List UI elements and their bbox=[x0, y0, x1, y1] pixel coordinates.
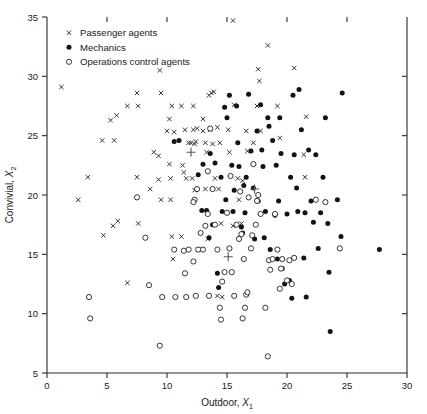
point-passenger-agent bbox=[156, 177, 160, 181]
point-passenger-agent bbox=[292, 66, 296, 70]
point-passenger-agent bbox=[86, 175, 90, 179]
point-operations-control-agent bbox=[146, 283, 151, 288]
point-mechanic bbox=[261, 164, 266, 169]
point-passenger-agent bbox=[159, 198, 163, 202]
point-operations-control-agent bbox=[191, 259, 196, 264]
x-tick-label: 25 bbox=[342, 380, 353, 391]
point-operations-control-agent bbox=[270, 256, 275, 261]
point-operations-control-agent bbox=[275, 247, 280, 252]
point-passenger-agent bbox=[159, 91, 163, 95]
point-mechanic bbox=[292, 152, 297, 157]
point-mechanic bbox=[216, 285, 221, 290]
point-operations-control-agent bbox=[193, 293, 198, 298]
point-mechanic bbox=[321, 175, 326, 180]
point-passenger-agent bbox=[135, 175, 139, 179]
point-operations-control-agent bbox=[182, 271, 187, 276]
point-mechanic bbox=[231, 209, 236, 214]
point-passenger-agent bbox=[226, 128, 230, 132]
point-mechanic bbox=[318, 210, 323, 215]
point-operations-control-agent bbox=[292, 255, 297, 260]
y-axis-title: Convivial, X2 bbox=[4, 167, 17, 224]
x-tick-label: 5 bbox=[104, 380, 109, 391]
point-passenger-agent bbox=[215, 294, 219, 298]
point-mechanic bbox=[274, 163, 279, 168]
y-tick-label: 5 bbox=[33, 368, 38, 379]
point-passenger-agent bbox=[278, 136, 282, 140]
point-mechanic bbox=[255, 128, 260, 133]
point-operations-control-agent bbox=[268, 267, 273, 272]
point-operations-control-agent bbox=[242, 305, 247, 310]
point-passenger-agent bbox=[180, 163, 184, 167]
point-passenger-agent bbox=[183, 128, 187, 132]
point-operations-control-agent bbox=[239, 232, 244, 237]
point-passenger-agent bbox=[156, 154, 160, 158]
point-passenger-agent bbox=[116, 219, 120, 223]
point-operations-control-agent bbox=[160, 294, 165, 299]
point-passenger-agent bbox=[257, 79, 261, 83]
point-mechanic bbox=[297, 87, 302, 92]
point-passenger-agent bbox=[179, 104, 183, 108]
point-mechanic bbox=[285, 211, 290, 216]
point-passenger-agent bbox=[184, 176, 188, 180]
legend-label: Passenger agents bbox=[80, 27, 158, 38]
point-operations-control-agent bbox=[220, 279, 225, 284]
point-operations-control-agent bbox=[253, 222, 258, 227]
point-mechanic bbox=[67, 45, 72, 50]
point-passenger-agent bbox=[191, 128, 195, 132]
point-passenger-agent bbox=[100, 138, 104, 142]
point-operations-control-agent bbox=[184, 294, 189, 299]
point-operations-control-agent bbox=[208, 126, 213, 131]
point-passenger-agent bbox=[201, 129, 205, 133]
point-operations-control-agent bbox=[200, 247, 205, 252]
point-mechanic bbox=[270, 138, 275, 143]
point-passenger-agent bbox=[240, 179, 244, 183]
point-operations-control-agent bbox=[272, 211, 277, 216]
point-passenger-agent bbox=[256, 67, 260, 71]
legend-item: Passenger agents bbox=[67, 27, 158, 38]
point-passenger-agent bbox=[59, 85, 63, 89]
point-mechanic bbox=[288, 175, 293, 180]
point-operations-control-agent bbox=[212, 222, 217, 227]
legend: Passenger agentsMechanicsOperations cont… bbox=[66, 27, 190, 67]
point-operations-control-agent bbox=[263, 305, 268, 310]
point-operations-control-agent bbox=[205, 169, 210, 174]
point-passenger-agent bbox=[218, 141, 222, 145]
group-centroid-marker bbox=[187, 148, 196, 157]
scatter-plot-svg: 0510152025305101520253035 Passenger agen… bbox=[0, 0, 427, 414]
series-filled-circle bbox=[172, 87, 382, 334]
point-mechanic bbox=[258, 102, 263, 107]
point-operations-control-agent bbox=[245, 290, 250, 295]
point-mechanic bbox=[262, 235, 267, 240]
point-operations-control-agent bbox=[186, 247, 191, 252]
point-operations-control-agent bbox=[246, 195, 251, 200]
point-mechanic bbox=[267, 124, 272, 129]
point-mechanic bbox=[304, 295, 309, 300]
point-passenger-agent bbox=[266, 43, 270, 47]
point-mechanic bbox=[235, 140, 240, 145]
point-passenger-agent bbox=[170, 234, 174, 238]
point-mechanic bbox=[377, 247, 382, 252]
point-mechanic bbox=[196, 172, 201, 177]
point-operations-control-agent bbox=[240, 316, 245, 321]
point-passenger-agent bbox=[108, 118, 112, 122]
point-passenger-agent bbox=[76, 198, 80, 202]
point-passenger-agent bbox=[179, 234, 183, 238]
point-passenger-agent bbox=[227, 150, 231, 154]
point-mechanic bbox=[241, 183, 246, 188]
point-operations-control-agent bbox=[143, 235, 148, 240]
point-passenger-agent bbox=[195, 126, 199, 130]
point-mechanic bbox=[223, 197, 228, 202]
point-mechanic bbox=[215, 271, 220, 276]
point-mechanic bbox=[291, 93, 296, 98]
point-operations-control-agent bbox=[234, 222, 239, 227]
point-passenger-agent bbox=[302, 152, 306, 156]
point-mechanic bbox=[259, 147, 264, 152]
point-operations-control-agent bbox=[313, 197, 318, 202]
point-mechanic bbox=[227, 93, 232, 98]
point-passenger-agent bbox=[136, 104, 140, 108]
point-operations-control-agent bbox=[172, 247, 177, 252]
point-operations-control-agent bbox=[88, 316, 93, 321]
point-mechanic bbox=[239, 225, 244, 230]
legend-item: Operations control agents bbox=[66, 56, 190, 67]
point-mechanic bbox=[234, 104, 239, 109]
